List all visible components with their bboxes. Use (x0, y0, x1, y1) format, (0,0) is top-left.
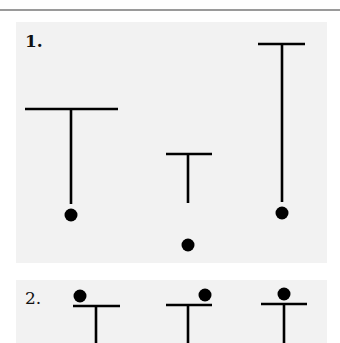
panel-2-figure-2 (166, 289, 212, 343)
ball-dot (74, 290, 87, 303)
ball-dot (278, 288, 291, 301)
panel-1-figure-2 (166, 154, 212, 252)
ball-dot (199, 289, 212, 302)
panel-2-figure-3 (261, 288, 307, 343)
pendulum-figures (0, 0, 340, 343)
ball-dot (182, 239, 195, 252)
panel-2-figure-1 (73, 290, 120, 343)
panel-1-figure-1 (25, 109, 118, 222)
panel-1-figure-3 (258, 44, 305, 220)
ball-dot (276, 207, 289, 220)
ball-dot (65, 209, 78, 222)
